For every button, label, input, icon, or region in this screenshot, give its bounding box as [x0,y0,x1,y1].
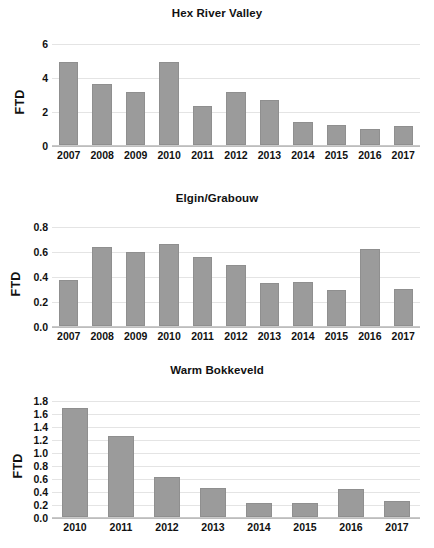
y-tick-label: 2 [42,107,48,117]
bar[interactable] [92,247,111,326]
bar[interactable] [293,282,312,326]
x-tick-label: 2015 [320,149,353,162]
y-tick-label: 0 [42,141,48,151]
bar-slot [353,44,386,145]
bar-slot [320,44,353,145]
bar[interactable] [338,489,365,517]
bar[interactable] [394,126,413,145]
bar[interactable] [159,244,178,326]
y-axis-ticks: 0246 [18,44,48,146]
bar-series [52,227,420,326]
x-tick-label: 2011 [186,330,219,343]
x-tick-label: 2017 [374,521,420,534]
x-tick-label: 2010 [152,149,185,162]
bar[interactable] [92,84,111,145]
bar[interactable] [126,92,145,145]
bar-slot [98,401,144,517]
y-tick-label: 0.6 [33,474,48,484]
y-tick-label: 0.0 [33,513,48,523]
y-tick-label: 1.4 [33,422,48,432]
bar[interactable] [193,106,212,145]
x-tick-label: 2010 [152,330,185,343]
x-tick-label: 2007 [52,149,85,162]
x-tick-label: 2011 [186,149,219,162]
x-tick-label: 2008 [85,330,118,343]
bar[interactable] [59,62,78,145]
y-tick-label: 0.6 [33,247,48,257]
bar-slot [219,227,252,326]
bar-slot [328,401,374,517]
x-tick-label: 2012 [144,521,190,534]
bar[interactable] [226,92,245,145]
gridline [52,327,420,328]
bar[interactable] [260,100,279,145]
bar-slot [282,401,328,517]
x-tick-label: 2011 [98,521,144,534]
x-tick-label: 2017 [387,149,420,162]
bar-slot [190,401,236,517]
x-tick-label: 2015 [282,521,328,534]
x-tick-label: 2016 [328,521,374,534]
bar-slot [219,44,252,145]
bar[interactable] [292,503,319,517]
bar-slot [387,44,420,145]
y-tick-label: 0.8 [33,461,48,471]
bar-slot [52,401,98,517]
bar[interactable] [246,503,273,517]
bar-slot [152,227,185,326]
y-tick-label: 0.4 [33,487,48,497]
bar[interactable] [193,257,212,326]
y-tick-label: 1.8 [33,396,48,406]
bar[interactable] [154,477,181,517]
y-axis-ticks: 0.00.20.40.60.8 [18,227,48,327]
bar[interactable] [384,501,411,517]
bar[interactable] [394,289,413,326]
bar[interactable] [360,249,379,326]
bar[interactable] [360,129,379,145]
bar[interactable] [293,122,312,145]
x-tick-label: 2009 [119,149,152,162]
chart-panel-warm-bokkeveld: Warm Bokkeveld FTD0.00.20.40.60.81.01.21… [0,357,434,548]
y-tick-label: 0.2 [33,297,48,307]
chart-title: Warm Bokkeveld [0,357,434,377]
x-tick-label: 2012 [219,330,252,343]
y-tick-label: 1.0 [33,448,48,458]
bar[interactable] [59,280,78,326]
bar-slot [236,401,282,517]
y-tick-label: 4 [42,73,48,83]
bar[interactable] [327,290,346,326]
plot-wrap: FTD0246200720082009201020112012201320142… [0,20,434,168]
gridline [52,146,420,147]
bar[interactable] [108,436,135,517]
x-axis-ticks: 2007200820092010201120122013201420152016… [52,330,420,343]
bar-slot [119,44,152,145]
y-tick-label: 6 [42,39,48,49]
bar-series [52,401,420,517]
x-tick-label: 2010 [52,521,98,534]
bar-slot [85,44,118,145]
bar[interactable] [159,62,178,145]
chart-title: Hex River Valley [0,0,434,20]
bar[interactable] [327,125,346,145]
chart-page: Hex River Valley FTD02462007200820092010… [0,0,434,548]
x-tick-label: 2016 [353,330,386,343]
plot-wrap: FTD0.00.20.40.60.82007200820092010201120… [0,205,434,349]
x-tick-label: 2015 [320,330,353,343]
bar-slot [387,227,420,326]
bar[interactable] [200,488,227,517]
x-tick-label: 2014 [286,330,319,343]
y-tick-label: 1.2 [33,435,48,445]
bar-slot [186,44,219,145]
plot-wrap: FTD0.00.20.40.60.81.01.21.41.61.82010201… [0,377,434,540]
bar[interactable] [62,408,89,517]
bar[interactable] [260,283,279,326]
bar-slot [152,44,185,145]
x-tick-label: 2017 [387,330,420,343]
y-tick-label: 0.0 [33,322,48,332]
x-axis-ticks: 20102011201220132014201520162017 [52,521,420,534]
bar[interactable] [226,265,245,326]
x-tick-label: 2013 [253,330,286,343]
x-tick-label: 2014 [236,521,282,534]
bar-slot [253,44,286,145]
bar[interactable] [126,252,145,326]
